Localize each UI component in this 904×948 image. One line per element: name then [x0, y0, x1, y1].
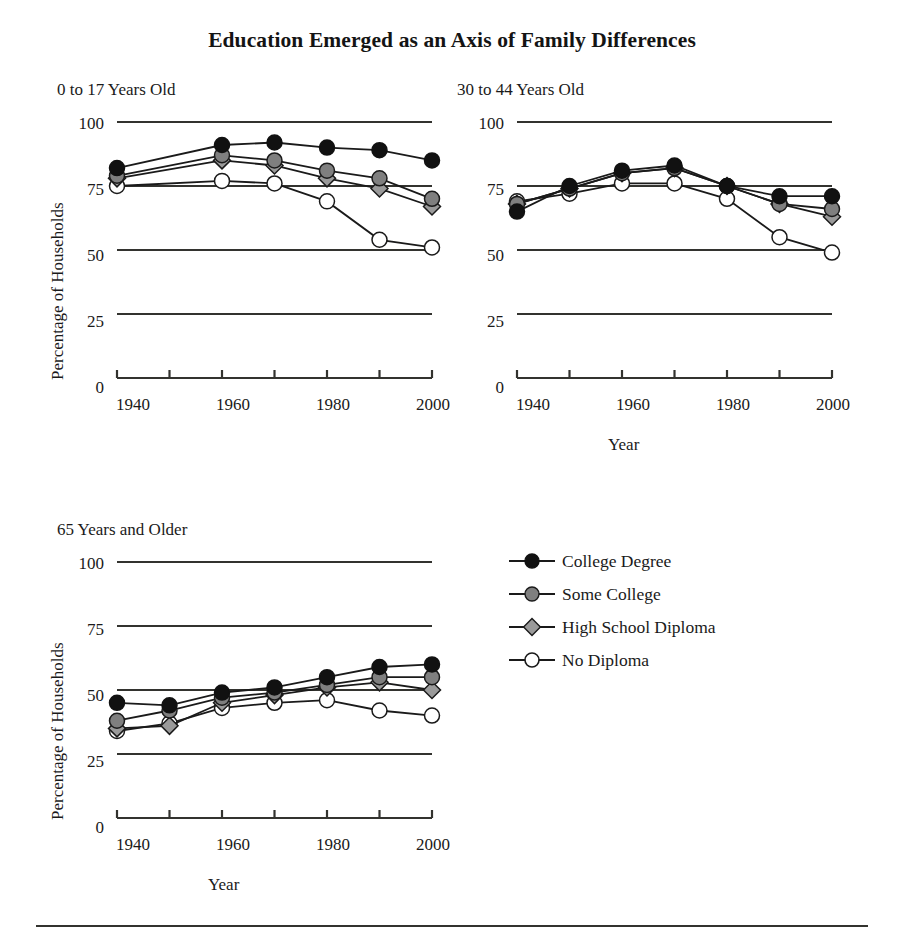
legend-marker-open-circle-icon: [508, 649, 556, 671]
x-tick-1960-panel-2: 1960: [603, 395, 663, 415]
data-point-college-degree-1960: [215, 138, 230, 153]
plot-area-30-to-44: [400, 80, 900, 410]
data-point-college-degree-1970: [267, 680, 282, 695]
data-point-no-diploma-2000: [825, 245, 840, 260]
data-point-no-diploma-1990: [372, 232, 387, 247]
data-point-college-degree-1950: [162, 698, 177, 713]
x-tick-2000-panel-3: 2000: [403, 835, 463, 855]
x-tick-1960-panel-1: 1960: [203, 395, 263, 415]
data-point-college-degree-1940: [110, 161, 125, 176]
data-point-college-degree-1950: [562, 179, 577, 194]
legend-item-college-degree[interactable]: College Degree: [508, 550, 671, 572]
x-tick-1940-panel-2: 1940: [503, 395, 563, 415]
data-point-college-degree-1980: [320, 140, 335, 155]
panel-65-and-older: 65 Years and Older Percentage of Househo…: [0, 520, 460, 910]
data-point-college-degree-1940: [110, 695, 125, 710]
legend-marker-filled-circle-icon: [508, 550, 556, 572]
data-point-college-degree-1980: [720, 179, 735, 194]
x-tick-1980-panel-1: 1980: [303, 395, 363, 415]
legend-item-some-college[interactable]: Some College: [508, 583, 661, 605]
figure-root: Education Emerged as an Axis of Family D…: [0, 0, 904, 948]
data-point-college-degree-2000: [425, 657, 440, 672]
data-point-some-college-1980: [320, 163, 335, 178]
panel-30-to-44: 30 to 44 Years Old 100 75 50 25 0 1940 1…: [400, 80, 900, 470]
data-point-college-degree-1970: [267, 135, 282, 150]
legend-label-some-college: Some College: [562, 584, 661, 605]
x-tick-1940-panel-3: 1940: [103, 835, 163, 855]
data-point-some-college-1940: [110, 713, 125, 728]
data-point-some-college-1970: [267, 153, 282, 168]
data-point-no-diploma-1960: [215, 173, 230, 188]
data-point-no-diploma-1970: [267, 176, 282, 191]
x-tick-1980-panel-2: 1980: [703, 395, 763, 415]
data-point-college-degree-1990: [372, 659, 387, 674]
panel-0-to-17: 0 to 17 Years Old Percentage of Househol…: [0, 80, 460, 410]
plot-area-0-to-17: [0, 80, 460, 410]
data-point-college-degree-2000: [825, 189, 840, 204]
legend-item-no-diploma[interactable]: No Diploma: [508, 649, 649, 671]
data-point-college-degree-1980: [320, 670, 335, 685]
legend-item-high-school-diploma[interactable]: High School Diploma: [508, 616, 716, 638]
footer-divider: [36, 925, 868, 927]
page-title: Education Emerged as an Axis of Family D…: [0, 28, 904, 53]
data-point-no-diploma-2000: [425, 708, 440, 723]
x-axis-title-panel-3: Year: [208, 875, 239, 895]
x-tick-1960-panel-3: 1960: [203, 835, 263, 855]
legend-marker-gray-diamond-icon: [508, 616, 556, 638]
legend: College Degree Some College High School …: [508, 550, 808, 700]
x-tick-2000-panel-2: 2000: [803, 395, 863, 415]
data-point-college-degree-1960: [215, 685, 230, 700]
data-point-no-diploma-1980: [320, 194, 335, 209]
legend-marker-gray-circle-icon: [508, 583, 556, 605]
data-point-some-college-1990: [372, 171, 387, 186]
x-axis-title-panel-2: Year: [608, 435, 639, 455]
data-point-no-diploma-1990: [772, 230, 787, 245]
data-point-college-degree-1990: [772, 189, 787, 204]
data-point-college-degree-1940: [510, 204, 525, 219]
legend-label-high-school-diploma: High School Diploma: [562, 617, 716, 638]
x-tick-1940-panel-1: 1940: [103, 395, 163, 415]
plot-area-65-and-older: [0, 520, 460, 850]
data-point-no-diploma-1990: [372, 703, 387, 718]
x-tick-1980-panel-3: 1980: [303, 835, 363, 855]
data-point-college-degree-1990: [372, 143, 387, 158]
data-point-college-degree-1970: [667, 158, 682, 173]
data-point-college-degree-1960: [615, 163, 630, 178]
legend-label-college-degree: College Degree: [562, 551, 671, 572]
data-point-no-diploma-1970: [667, 176, 682, 191]
legend-label-no-diploma: No Diploma: [562, 650, 649, 671]
